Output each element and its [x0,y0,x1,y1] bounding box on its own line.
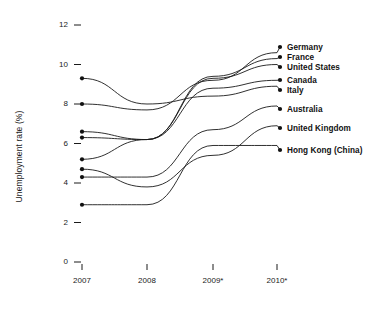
y-axis-title: Unemployment rate (%) [14,0,30,313]
y-tick-4: 4 [46,179,68,187]
series-label-italy: Italy [287,86,304,95]
y-tick-8: 8 [46,100,68,108]
marker-start [80,130,84,134]
x-tick-2007: 2007 [62,277,102,285]
unemployment-rate-line-chart: Unemployment rate (%) 0 2 4 6 8 10 12 20… [0,0,385,313]
marker-start [80,175,84,179]
axis-tick-marks [74,25,277,270]
series-lines [82,53,277,205]
marker-start [80,203,84,207]
x-tick-2009: 2009* [193,277,233,285]
y-tick-2: 2 [46,219,68,227]
marker-start [80,135,84,139]
series-label-hong-kong: Hong Kong (China) [287,146,362,155]
marker-start [80,102,84,106]
marker-start [80,157,84,161]
y-tick-6: 6 [46,140,68,148]
plot-area [0,0,385,313]
series-label-united-kingdom: United Kingdom [287,124,351,133]
series-markers [80,45,282,207]
series-label-germany: Germany [287,43,323,52]
y-tick-0: 0 [46,258,68,266]
marker-start [80,76,84,80]
series-label-france: France [287,53,314,62]
series-line-germany [82,53,277,110]
label-leader-lines [277,47,280,150]
y-tick-12: 12 [46,21,68,29]
y-tick-10: 10 [46,61,68,69]
series-line-italy [82,78,277,104]
series-label-canada: Canada [287,76,317,85]
series-label-australia: Australia [287,105,323,114]
marker-start [80,167,84,171]
x-tick-2010: 2010* [257,277,297,285]
x-tick-2008: 2008 [127,277,167,285]
series-label-united-states: United States [287,63,340,72]
series-line-australia [82,106,277,177]
